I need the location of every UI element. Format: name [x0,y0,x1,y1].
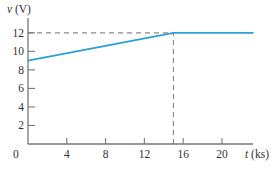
y-tick-label: 10 [13,45,25,57]
y-tick-label: 4 [18,101,24,113]
x-tick-label: 20 [216,148,228,160]
voltage-curve [28,33,253,61]
x-tick-label: 8 [103,148,109,160]
x-tick-label: 4 [64,148,70,160]
y-tick-label: 8 [18,64,24,76]
x-tick-label: 16 [177,148,189,160]
y-tick-label: 2 [18,119,24,131]
x-axis-label: t (ks) [245,148,269,161]
y-tick-label: 6 [18,82,24,94]
y-axis-label: v (V) [7,3,31,16]
voltage-time-chart: 48121620246810120v (V)t (ks) [0,0,279,171]
origin-label: 0 [13,148,19,160]
chart-canvas: 48121620246810120v (V)t (ks) [0,0,279,171]
x-tick-label: 12 [139,148,151,160]
y-tick-label: 12 [13,27,25,39]
